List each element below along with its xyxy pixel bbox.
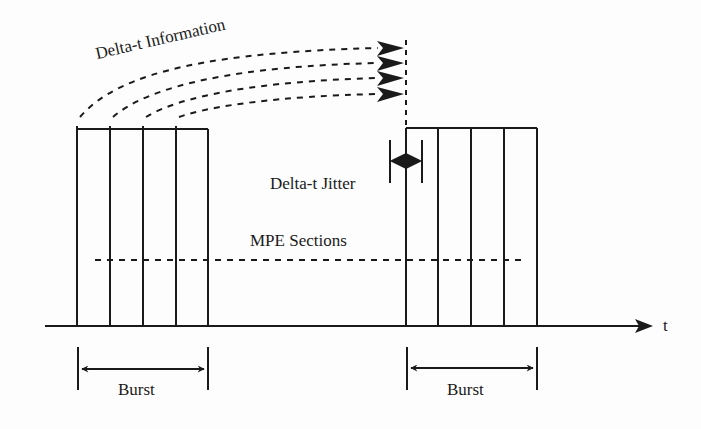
- time-axis: [45, 319, 653, 333]
- delta-t-information-arrows: [80, 48, 378, 117]
- time-axis-label: t: [663, 316, 668, 336]
- arrowheads-icon: [377, 41, 404, 102]
- mpe-sections-label: MPE Sections: [250, 231, 347, 251]
- diagram-graphics: [0, 0, 701, 429]
- burst-label-left: Burst: [118, 380, 155, 400]
- delta-t-jitter-label: Delta-t Jitter: [270, 174, 355, 194]
- timing-diagram: Delta-t Information Delta-t Jitter MPE S…: [0, 0, 701, 429]
- right-burst-sections: [406, 128, 537, 326]
- left-burst-sections: [77, 126, 208, 326]
- burst-label-right: Burst: [447, 380, 484, 400]
